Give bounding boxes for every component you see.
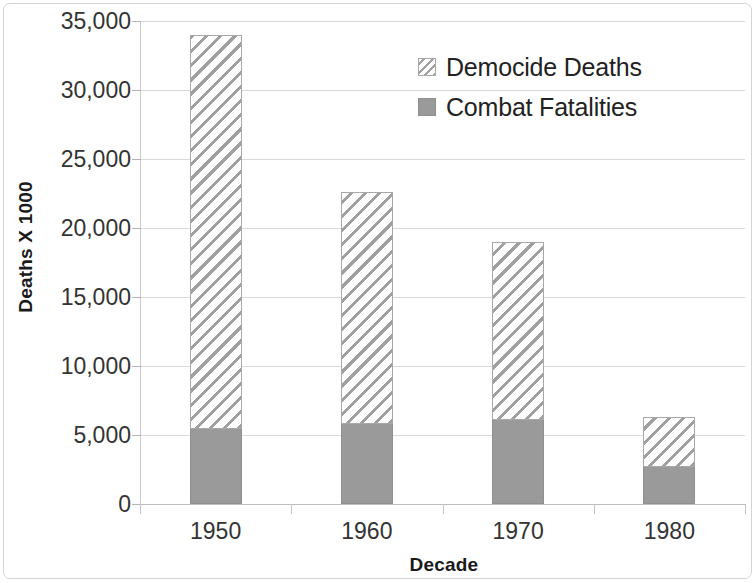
bar-1950[interactable]	[190, 21, 242, 504]
y-axis-tick-label: 10,000	[20, 355, 140, 378]
bar-segment-combat-1970[interactable]	[492, 420, 544, 504]
legend-item-democide-deaths[interactable]: Democide Deaths	[418, 47, 642, 87]
chart-container: Deaths X 1000 05,00010,00015,00020,00025…	[0, 0, 755, 583]
y-axis-tick-label: 35,000	[20, 10, 140, 33]
legend-label-combat-fatalities: Combat Fatalities	[446, 93, 637, 122]
bar-segment-democide-1960[interactable]	[341, 192, 393, 424]
legend-item-combat-fatalities[interactable]: Combat Fatalities	[418, 87, 642, 127]
y-axis-tick-mark	[132, 159, 141, 160]
bar-segment-democide-1980[interactable]	[643, 417, 695, 467]
legend-swatch-combat-icon	[418, 98, 436, 116]
x-axis-title: Decade	[140, 554, 748, 576]
y-axis-tick-mark	[132, 228, 141, 229]
y-axis-tick-mark	[132, 90, 141, 91]
x-axis-tick-label-1950: 1950	[190, 518, 241, 545]
bar-segment-combat-1960[interactable]	[341, 424, 393, 504]
y-axis-tick-label: 25,000	[20, 148, 140, 171]
bar-1960[interactable]	[341, 21, 393, 504]
y-axis-tick-label: 0	[20, 493, 140, 516]
x-axis-tick-mark	[745, 504, 746, 514]
x-axis-tick-mark	[594, 504, 595, 514]
y-axis-tick-mark	[132, 297, 141, 298]
bar-segment-democide-1970[interactable]	[492, 242, 544, 420]
x-axis-tick-label-1960: 1960	[341, 518, 392, 545]
y-axis-tick-mark	[132, 366, 141, 367]
x-axis-tick-label-1980: 1980	[644, 518, 695, 545]
bar-segment-combat-1950[interactable]	[190, 429, 242, 504]
y-axis-tick-mark	[132, 435, 141, 436]
x-axis-tick-mark	[140, 504, 141, 514]
x-axis-tick-mark	[443, 504, 444, 514]
bar-segment-combat-1980[interactable]	[643, 467, 695, 504]
legend-label-democide-deaths: Democide Deaths	[446, 53, 642, 82]
chart-legend: Democide Deaths Combat Fatalities	[418, 47, 642, 127]
y-axis-tick-label: 30,000	[20, 79, 140, 102]
y-axis-tick-label: 5,000	[20, 424, 140, 447]
x-axis-tick-label-1970: 1970	[493, 518, 544, 545]
y-axis-tick-mark	[132, 21, 141, 22]
x-axis-tick-mark	[291, 504, 292, 514]
legend-swatch-democide-icon	[418, 58, 436, 76]
y-axis-tick-label: 15,000	[20, 286, 140, 309]
bar-1980[interactable]	[643, 21, 695, 504]
bar-segment-democide-1950[interactable]	[190, 35, 242, 430]
y-axis-tick-label: 20,000	[20, 217, 140, 240]
y-axis-tick-labels: 05,00010,00015,00020,00025,00030,00035,0…	[20, 0, 140, 583]
